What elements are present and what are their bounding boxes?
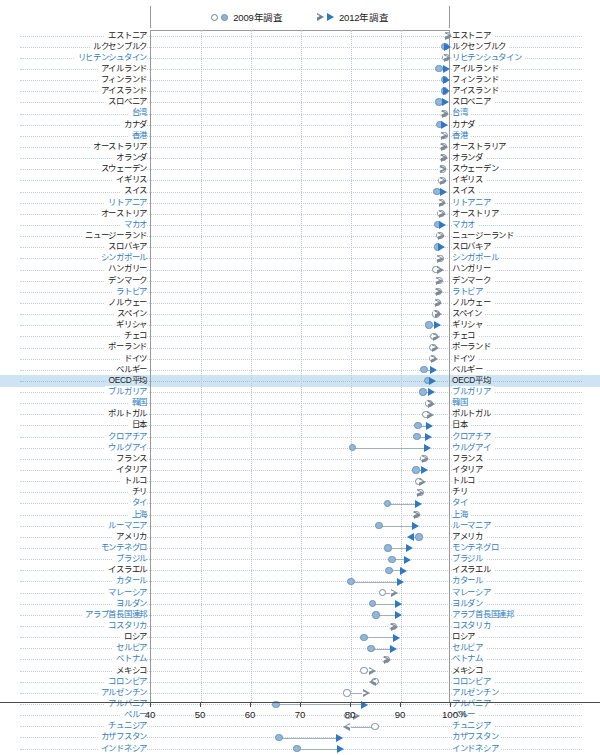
chart-legend: 2009年調査 2012年調査 [150, 6, 450, 28]
axis-tick-50 [200, 702, 201, 707]
row-label-left: チリ [129, 486, 147, 498]
row-label-left: カナダ [121, 119, 147, 131]
row-label-right: ルクセンブルク [452, 41, 509, 53]
axis-tick-90 [400, 702, 401, 707]
row-label-right: セルビア [452, 642, 486, 654]
row-label-left: フィンランド [98, 74, 147, 86]
row-label-right: クロアチア [452, 431, 494, 443]
row-label-right: イタリア [452, 464, 486, 476]
row-label-right: マレーシア [452, 587, 494, 599]
axis-tick-60 [250, 702, 251, 707]
gridline-60 [251, 30, 252, 702]
row-label-right: シンガポール [452, 252, 501, 264]
row-label-right: チュニジア [452, 720, 494, 732]
row-label-left: ヨルダン [113, 598, 147, 610]
row-label-right: ハンガリー [452, 263, 494, 275]
legend-item-2012: 2012年調査 [317, 10, 389, 24]
row-label-right: 日本 [452, 419, 470, 431]
legend-label-2009: 2009年調査 [233, 10, 283, 24]
row-label-left: インドネシア [98, 743, 147, 755]
chart-row: カザフスタンカザフスタン [0, 732, 600, 743]
row-label-right: ラトビア [452, 286, 486, 298]
legend-label-2012: 2012年調査 [339, 10, 389, 24]
row-label-left: 台湾 [129, 107, 147, 119]
row-label-left: チュニジア [105, 720, 147, 732]
gridline-50 [201, 30, 202, 702]
row-label-left: イギリス [113, 174, 147, 186]
axis-tick-label-90: 90 [395, 709, 406, 720]
row-label-left: 上海 [129, 509, 147, 521]
plot-area [150, 30, 450, 702]
row-label-right: ベトナム [452, 653, 486, 665]
row-label-left: マカオ [121, 219, 147, 231]
row-label-right: ウルグアイ [452, 442, 494, 454]
row-label-right: オーストラリア [452, 141, 509, 153]
row-label-left: フランス [113, 453, 147, 465]
row-label-left: アイルランド [98, 63, 147, 75]
row-label-left: トルコ [121, 475, 147, 487]
row-label-right: リトアニア [452, 197, 494, 209]
row-label-right: 上海 [452, 509, 470, 521]
triangle-open-icon [317, 13, 324, 21]
row-label-left: イスラエル [105, 564, 147, 576]
triangle-filled-icon [327, 13, 334, 21]
row-label-left: アイスランド [98, 85, 147, 97]
axis-tick-70 [300, 702, 301, 707]
row-label-left: マレーシア [105, 587, 147, 599]
row-label-right: アルバニア [452, 698, 494, 710]
row-label-left: ルーマニア [105, 520, 147, 532]
row-label-left: スロバキア [105, 241, 147, 253]
row-label-left: 韓国 [129, 397, 147, 409]
row-label-right: マカオ [452, 219, 478, 231]
row-label-left: ペルー [121, 709, 147, 721]
chart-row: インドネシアインドネシア [0, 743, 600, 754]
row-label-right: スロバキア [452, 241, 494, 253]
axis-tick-label-50: 50 [195, 709, 206, 720]
row-label-left: リヒテンシュタイン [75, 52, 147, 64]
row-label-right: イギリス [452, 174, 486, 186]
row-label-right: エストニア [452, 30, 494, 42]
row-label-left: スロベニア [105, 96, 147, 108]
row-label-left: エストニア [105, 30, 147, 42]
row-label-right: ブラジル [452, 553, 486, 565]
axis-tick-label-70: 70 [295, 709, 306, 720]
row-label-left: OECD平均 [106, 375, 147, 387]
row-label-left: ベルギー [113, 364, 147, 376]
row-label-right: インドネシア [452, 743, 501, 755]
row-label-left: アルゼンチン [98, 687, 147, 699]
row-label-right: カザフスタン [452, 731, 501, 743]
row-label-left: コスタリカ [105, 620, 147, 632]
row-label-right: アメリカ [452, 531, 486, 543]
row-label-left: ラトビア [113, 286, 147, 298]
row-label-right: スウェーデン [452, 163, 501, 175]
row-label-right: OECD平均 [452, 375, 493, 387]
row-label-right: 台湾 [452, 107, 470, 119]
row-label-left: シンガポール [98, 252, 147, 264]
row-label-right: 韓国 [452, 397, 470, 409]
row-label-left: オーストリア [98, 208, 147, 220]
row-label-left: イタリア [113, 464, 147, 476]
row-label-right: コスタリカ [452, 620, 494, 632]
row-label-left: ベトナム [113, 653, 147, 665]
row-label-right: モンテネグロ [452, 542, 501, 554]
row-label-left: リトアニア [105, 197, 147, 209]
axis-tick-80 [350, 702, 351, 707]
row-label-right: アイスランド [452, 85, 501, 97]
row-label-right: リヒテンシュタイン [452, 52, 524, 64]
row-label-left: タイ [129, 497, 147, 509]
row-label-left: ニュージーランド [82, 230, 147, 242]
axis-tick-label-80: 80 [345, 709, 356, 720]
axis-tick-100 [450, 702, 451, 707]
row-label-left: カタール [113, 575, 147, 587]
row-label-right: カタール [452, 575, 486, 587]
row-label-right: ポーランド [452, 341, 494, 353]
row-label-right: ベルギー [452, 364, 486, 376]
row-label-right: チリ [452, 486, 470, 498]
row-label-right: ヨルダン [452, 598, 486, 610]
row-label-right: アルゼンチン [452, 687, 501, 699]
row-label-left: ノルウェー [105, 297, 147, 309]
row-label-right: メキシコ [452, 665, 486, 677]
row-label-left: アルバニア [105, 698, 147, 710]
row-label-left: オーストラリア [90, 141, 147, 153]
row-label-left: スウェーデン [98, 163, 147, 175]
